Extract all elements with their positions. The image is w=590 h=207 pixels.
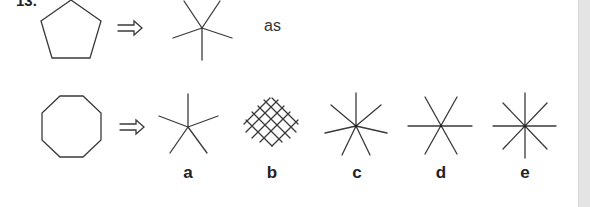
- scrollbar[interactable]: [578, 0, 590, 207]
- center-dot: [523, 124, 526, 127]
- option-c-figure[interactable]: [325, 93, 387, 155]
- center-dot: [354, 124, 357, 127]
- option-e-label[interactable]: e: [515, 163, 535, 183]
- pentagon-shape: [41, 0, 101, 58]
- arrow-icon: [118, 21, 142, 35]
- option-b-label[interactable]: b: [262, 163, 282, 183]
- option-b-figure[interactable]: [244, 98, 298, 146]
- option-a-figure[interactable]: [159, 94, 218, 153]
- option-a-label[interactable]: a: [178, 163, 198, 183]
- octagon-shape: [42, 96, 101, 157]
- example-five-line-star: [173, 1, 232, 60]
- option-d-label[interactable]: d: [431, 163, 451, 183]
- relation-text: as: [264, 17, 281, 35]
- arrow-icon: [120, 120, 144, 134]
- option-c-label[interactable]: c: [347, 163, 367, 183]
- center-dot: [440, 125, 442, 127]
